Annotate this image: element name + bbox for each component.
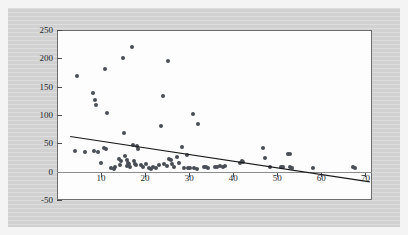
y-tick-label: 200 [40,54,54,63]
x-tick-label: 60 [317,174,326,183]
y-tick-label: 250 [40,26,54,35]
y-tick-mark [57,200,62,201]
y-tick-label: 100 [40,111,54,120]
scatter-plot-screenshot: 250200150100500-50 10203040506070 [0,0,408,235]
x-tick-label: 10 [97,174,106,183]
y-axis-labels: 250200150100500-50 [0,0,53,235]
x-tick-label: 50 [273,174,282,183]
x-tick-label: 40 [229,174,238,183]
y-tick-label: 150 [40,83,54,92]
x-tick-label: 70 [361,174,370,183]
x-tick-label: 30 [185,174,194,183]
y-tick-label: -50 [41,196,53,205]
y-tick-label: 50 [44,139,53,148]
x-tick-label: 20 [141,174,150,183]
x-axis-labels: 10203040506070 [0,174,408,188]
